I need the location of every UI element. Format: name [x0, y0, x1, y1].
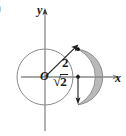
chord-length-label: √2 [53, 74, 68, 89]
x-axis-label: x [115, 72, 121, 84]
figure-container: ) y x O 2 √2 [0, 0, 126, 136]
radicand: 2 [60, 74, 68, 88]
radius-arrow-line [46, 46, 77, 76]
y-axis-label: y [37, 4, 42, 16]
part-enumerator-label: ) [0, 2, 1, 14]
sqrt-group: √2 [53, 74, 68, 89]
radius-length-label: 2 [62, 56, 69, 69]
chord-top-point [76, 47, 80, 51]
origin-label: O [40, 70, 49, 82]
